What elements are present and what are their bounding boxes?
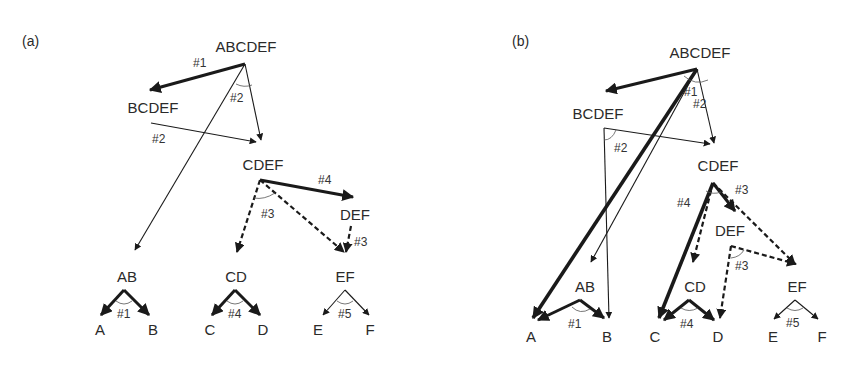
node-a: A: [95, 321, 105, 338]
node-c: C: [650, 328, 661, 345]
node-cdef: CDEF: [698, 157, 739, 174]
edge-arrow-thick: [260, 180, 353, 197]
edge-arrow-thin: [151, 123, 256, 142]
edge-arrow-thin: [245, 64, 261, 140]
node-bcdef: BCDEF: [573, 105, 624, 122]
edge-arrow-dashed: [720, 246, 731, 318]
node-label-group: ABCDEFBCDEFCDEFDEFABCDEFABCDEF: [526, 44, 827, 345]
angle-arc: [337, 301, 353, 304]
node-ab: AB: [575, 278, 595, 295]
angle-arc: [787, 308, 803, 311]
edge-arrow-dashed: [237, 180, 260, 252]
step-label: #3: [735, 259, 749, 273]
panel-a: (a) ABCDEFBCDEFCDEFDEFABCDEFABCDEF #1#2#…: [22, 33, 375, 338]
angle-arc: [116, 301, 132, 304]
step-label: #2: [152, 132, 166, 146]
node-d: D: [713, 328, 724, 345]
node-label-group: ABCDEFBCDEFCDEFDEFABCDEFABCDEF: [95, 38, 375, 338]
angle-arc: [254, 193, 275, 198]
panel-label: (a): [22, 33, 39, 49]
step-label: #2: [614, 141, 628, 155]
step-label: #1: [117, 307, 131, 321]
node-e: E: [313, 321, 323, 338]
angle-arc: [731, 250, 744, 258]
edge-arrow-dashed: [346, 226, 351, 252]
node-e: E: [768, 328, 778, 345]
node-b: B: [148, 321, 158, 338]
step-label: #2: [693, 97, 707, 111]
node-bcdef: BCDEF: [128, 99, 179, 116]
node-a: A: [526, 328, 536, 345]
node-f: F: [817, 328, 826, 345]
step-label: #4: [318, 173, 332, 187]
angle-arc: [227, 301, 243, 304]
node-ef: EF: [787, 278, 806, 295]
step-label: #3: [735, 183, 749, 197]
step-label: #4: [228, 307, 242, 321]
step-label: #5: [338, 307, 352, 321]
angle-arc: [604, 130, 616, 140]
node-abcdef: ABCDEF: [670, 44, 731, 61]
node-b: B: [602, 328, 612, 345]
edge-arrow-thick: [580, 300, 604, 318]
node-def: DEF: [715, 222, 745, 239]
edge-arrow-thick: [713, 183, 735, 211]
step-label: #1: [193, 56, 207, 70]
step-label: #4: [677, 196, 691, 210]
step-label: #3: [354, 235, 368, 249]
node-ab: AB: [117, 268, 137, 285]
node-cdef: CDEF: [243, 156, 284, 173]
step-label: #2: [230, 91, 244, 105]
step-label: #5: [786, 316, 800, 330]
node-ef: EF: [335, 268, 354, 285]
panel-label: (b): [512, 33, 529, 49]
step-label: #1: [568, 317, 582, 331]
node-d: D: [258, 321, 269, 338]
clustering-tree-diagram: (a) ABCDEFBCDEFCDEFDEFABCDEFABCDEF #1#2#…: [0, 0, 855, 366]
panel-b: (b) ABCDEFBCDEFCDEFDEFABCDEFABCDEF #1#2#…: [512, 33, 827, 345]
angle-arc: [572, 307, 590, 312]
angle-arc: [681, 308, 698, 311]
node-f: F: [365, 321, 374, 338]
node-abcdef: ABCDEF: [216, 38, 277, 55]
node-cd: CD: [684, 278, 706, 295]
edge-arrow-thin: [604, 128, 609, 318]
node-c: C: [205, 321, 216, 338]
edge-arrow-thin: [135, 64, 245, 250]
step-label: #4: [680, 317, 694, 331]
node-cd: CD: [225, 268, 247, 285]
step-label: #3: [261, 207, 275, 221]
node-def: DEF: [340, 206, 370, 223]
